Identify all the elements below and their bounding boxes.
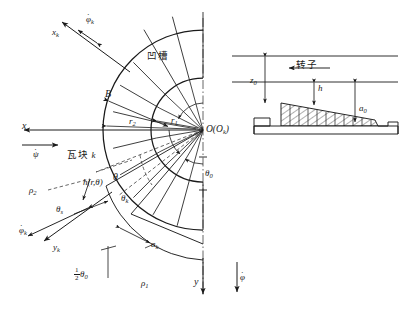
label-film-thickness: h(r,θ) [83, 178, 103, 187]
label-a0: a0 [359, 104, 367, 114]
groove-lines [144, 12, 203, 45]
label-radius-r2: r2 [129, 117, 136, 127]
label-theta-k: θk [121, 194, 128, 204]
label-pad: 瓦块 k [67, 150, 96, 160]
label-rotor: 转子 [296, 60, 317, 70]
label-axis-xk: xk [52, 28, 59, 38]
label-ak: ak [151, 240, 158, 250]
label-psi-dot: ·ψ [33, 150, 39, 159]
label-width-B: B [105, 89, 111, 99]
dimension-B [109, 101, 169, 127]
label-phi-dot-k-top: ·φk [86, 15, 94, 25]
leader-theta-s [74, 201, 108, 214]
label-rho-2: ρ2 [29, 186, 37, 196]
axis-xk [62, 22, 130, 72]
label-rho-1: ρ1 [141, 279, 149, 289]
axis-yk [44, 192, 112, 241]
label-theta-s: θs [56, 205, 63, 215]
label-theta-0: θ0 [205, 169, 213, 179]
label-phi-dot: ·φ [240, 273, 245, 282]
figure-canvas: xk ·φk 凹槽 B r2 r1 O(Ok) x ·ψ 瓦块 k h(r,θ)… [0, 0, 408, 311]
label-axis-yk: yk [53, 243, 60, 253]
label-axis-y: y [194, 277, 198, 287]
label-center-O: O(Ok) [206, 125, 229, 135]
label-z0: z0 [250, 76, 257, 86]
dimension-ak [120, 228, 154, 248]
leader-half-theta0 [101, 246, 116, 278]
label-groove: 凹槽 [147, 51, 168, 61]
label-radius-r1: r1 [171, 116, 178, 126]
label-theta: θ [113, 172, 118, 182]
label-phi-dot-k-bottom: ·φk [19, 226, 27, 236]
label-half-theta-0: 12θ0 [74, 267, 88, 283]
label-axis-x: x [22, 121, 26, 131]
label-inset-h: h [318, 84, 323, 93]
diagram-svg [0, 0, 408, 311]
